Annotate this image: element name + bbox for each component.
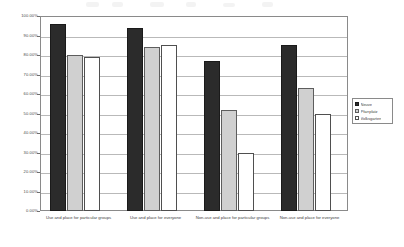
y-tick-label: 80.00% [0,52,38,57]
bar-group [40,16,117,211]
x-axis-label: Use and place for everyone [111,215,200,220]
legend-label: Pfarrplatz [361,109,378,114]
chart-figure: 100.00%90.00%80.00%70.00%60.00%50.00%40.… [0,0,404,247]
y-tick-label: 50.00% [0,111,38,116]
legend-item: Volksgarten [355,115,391,121]
legend-swatch [355,102,359,106]
scan-artifact [150,2,164,7]
y-tick-label: 0.00% [0,208,38,213]
y-tick-label: 90.00% [0,33,38,38]
bar [50,24,66,211]
scan-artifact [262,2,273,7]
legend-swatch [355,109,359,113]
y-tick-label: 60.00% [0,91,38,96]
bar [281,45,297,211]
scan-artifact [186,2,196,7]
bar [238,153,254,212]
bar [298,88,314,211]
legend-label: Volksgarten [361,116,382,121]
scan-artifact [112,2,123,7]
x-axis-label: Non-use and place for particular groups [188,215,277,220]
chart-legend: NeuvePfarrplatzVolksgarten [352,98,393,124]
bar-group [194,16,271,211]
bar [144,47,160,211]
bar [127,28,143,211]
bar [67,55,83,211]
y-tick-label: 40.00% [0,130,38,135]
y-tick-mark [37,211,40,212]
legend-item: Pfarrplatz [355,108,391,114]
bar-group [271,16,348,211]
scan-artifact [86,2,99,7]
legend-swatch [355,116,359,120]
x-axis-label: Use and place for particular groups [34,215,123,220]
bar [84,57,100,211]
y-tick-label: 20.00% [0,169,38,174]
y-tick-label: 70.00% [0,72,38,77]
y-tick-label: 100.00% [0,13,38,18]
bars-layer [40,16,348,211]
bar-group [117,16,194,211]
y-tick-label: 10.00% [0,189,38,194]
x-axis-label: Non-use and place for everyone [265,215,354,220]
legend-item: Neuve [355,101,391,107]
bar [221,110,237,211]
bar [315,114,331,212]
scan-artifact [223,3,235,7]
bar [161,45,177,211]
y-tick-label: 30.00% [0,150,38,155]
bar [204,61,220,211]
legend-label: Neuve [361,102,373,107]
